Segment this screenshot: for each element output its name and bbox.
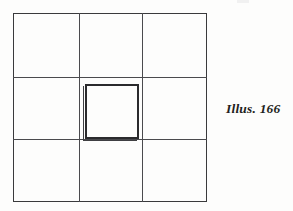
figure-container: Illus. 166 — [0, 0, 293, 211]
grid-diagram — [13, 13, 207, 202]
inset-square — [85, 84, 139, 139]
scan-artifact — [237, 0, 249, 3]
inset-square-border — [85, 84, 139, 139]
grid-vertical-divider-1 — [79, 13, 80, 202]
figure-caption: Illus. 166 — [226, 100, 290, 117]
grid-horizontal-divider-1 — [13, 77, 207, 78]
grid-vertical-divider-2 — [142, 13, 143, 202]
grid-horizontal-divider-2 — [13, 139, 207, 140]
